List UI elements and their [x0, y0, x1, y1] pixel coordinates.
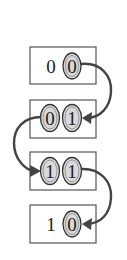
bit-1-1: 0: [46, 56, 56, 77]
bit-2-1: 0: [45, 108, 55, 129]
gray-code-diagram: 0 0 0 1 1 1 1 0: [0, 0, 127, 260]
bit-2-2: 1: [67, 108, 77, 129]
bit-3-2: 1: [67, 161, 77, 182]
bit-4-1: 1: [46, 214, 56, 235]
bit-3-1: 1: [45, 161, 55, 182]
bit-4-2: 0: [67, 214, 77, 235]
bit-1-2: 0: [67, 56, 77, 77]
state-box-1: 0 0: [30, 47, 96, 84]
